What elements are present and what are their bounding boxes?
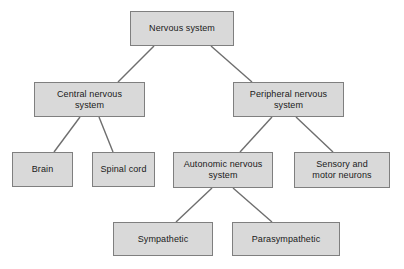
node-nervous-system[interactable]: Nervous system — [130, 11, 234, 46]
node-label: Autonomic nervous system — [184, 159, 263, 181]
edge-central-to-brain — [54, 117, 80, 152]
node-label: Sensory and motor neurons — [312, 159, 371, 181]
node-central-nervous-system[interactable]: Central nervous system — [34, 82, 145, 117]
node-sympathetic[interactable]: Sympathetic — [113, 222, 213, 256]
edge-nervous-to-central — [118, 46, 154, 82]
edge-peripheral-to-sensory — [296, 117, 333, 152]
node-brain[interactable]: Brain — [12, 152, 73, 187]
node-label: Peripheral nervous system — [250, 89, 327, 111]
node-sensory-and-motor-neurons[interactable]: Sensory and motor neurons — [294, 152, 390, 188]
node-label: Brain — [32, 164, 54, 175]
node-peripheral-nervous-system[interactable]: Peripheral nervous system — [233, 82, 344, 117]
edge-central-to-spinal — [99, 117, 113, 152]
node-label: Parasympathetic — [252, 234, 321, 245]
node-label: Spinal cord — [100, 164, 146, 175]
node-label: Sympathetic — [138, 234, 189, 245]
edge-nervous-to-peripheral — [211, 46, 252, 82]
edge-autonomic-to-parasympathetic — [233, 188, 272, 222]
node-spinal-cord[interactable]: Spinal cord — [92, 152, 155, 187]
node-parasympathetic[interactable]: Parasympathetic — [232, 222, 340, 256]
node-label: Nervous system — [149, 23, 215, 34]
node-label: Central nervous system — [57, 89, 122, 111]
edge-peripheral-to-autonomic — [240, 117, 272, 152]
diagram-canvas: Nervous systemCentral nervous systemPeri… — [0, 0, 404, 269]
edge-autonomic-to-sympathetic — [176, 188, 212, 222]
node-autonomic-nervous-system[interactable]: Autonomic nervous system — [173, 152, 273, 188]
